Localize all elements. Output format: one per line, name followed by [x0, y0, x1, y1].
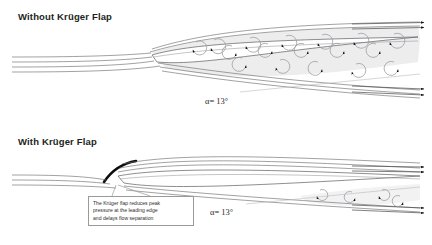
panel-top — [12, 22, 424, 98]
streamlines-incoming-top — [12, 53, 160, 72]
streamlines-upper-bottom — [118, 157, 420, 172]
panel-bottom — [12, 157, 424, 213]
chord-line-top — [240, 74, 420, 92]
callout-box: The Krüger flap reduces peak pressure at… — [88, 196, 194, 226]
callout-line-1: The Krüger flap reduces peak — [93, 200, 189, 207]
separation-region-bottom — [300, 184, 420, 206]
panel-title-top: Without Krüger Flap — [18, 11, 112, 22]
panel-title-bottom: With Krüger Flap — [18, 136, 97, 147]
angle-of-attack-label-top: α= 13° — [205, 96, 228, 106]
figure-canvas: Without Krüger Flap With Krüger Flap α= … — [0, 0, 432, 245]
angle-of-attack-label-bottom: α= 13° — [210, 207, 233, 217]
callout-line-3: and delays flow separation — [93, 215, 189, 222]
callout-line-2: pressure at the leading edge — [93, 207, 189, 214]
airfoil-bottom — [118, 170, 420, 187]
streamlines-incoming-bottom — [12, 175, 116, 188]
